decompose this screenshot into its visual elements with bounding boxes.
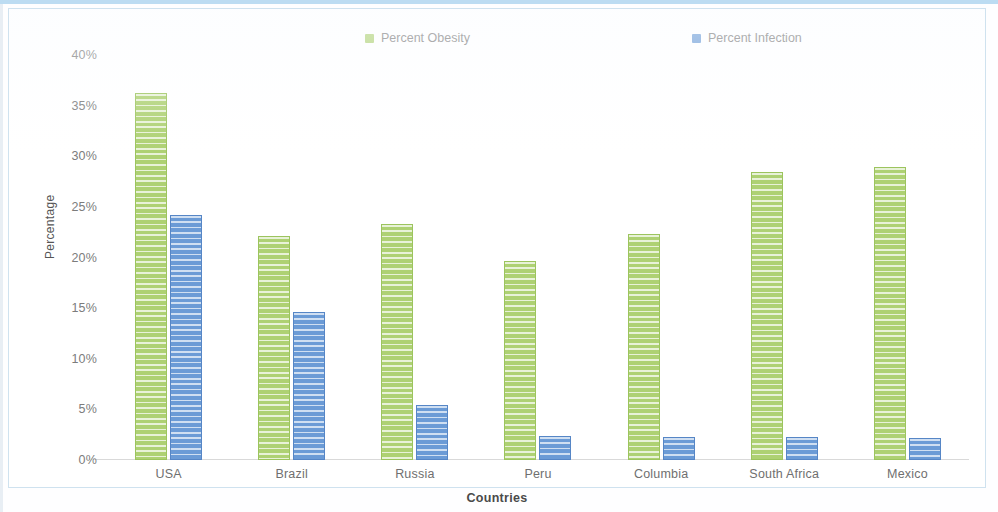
x-axis-tick-label: Peru (476, 467, 599, 481)
bar-group-bars (107, 55, 230, 460)
bar[interactable] (135, 93, 167, 460)
legend-label: Percent Infection (708, 31, 802, 45)
bar-group: Peru (476, 55, 599, 460)
scan-left-rule (0, 4, 3, 512)
bar-group: Columbia (600, 55, 723, 460)
chart-screenshot: Percent Obesity Percent Infection Percen… (0, 0, 998, 512)
y-axis-tick-label: 10% (71, 352, 97, 366)
chart-legend: Percent Obesity Percent Infection (107, 31, 969, 51)
x-axis-tick-label: Brazil (230, 467, 353, 481)
y-axis-tick-label: 25% (71, 200, 97, 214)
bar-group: USA (107, 55, 230, 460)
bar-group-bars (353, 55, 476, 460)
bar[interactable] (258, 236, 290, 460)
y-axis-tick-label: 15% (71, 301, 97, 315)
bar-group-bars (846, 55, 969, 460)
x-axis-title: Countries (9, 491, 985, 505)
bar[interactable] (663, 437, 695, 460)
chart-frame: Percent Obesity Percent Infection Percen… (8, 8, 986, 488)
y-axis-title: Percentage (43, 195, 57, 259)
y-axis-tick-label: 20% (71, 251, 97, 265)
scan-top-rule (0, 0, 998, 4)
bar[interactable] (381, 224, 413, 460)
y-axis-tick-label: 35% (71, 99, 97, 113)
bar[interactable] (416, 405, 448, 460)
bar-group: Brazil (230, 55, 353, 460)
y-axis-tick-label: 0% (79, 453, 97, 467)
bar[interactable] (909, 438, 941, 460)
y-axis-tick-label: 40% (71, 48, 97, 62)
bar-group-bars (476, 55, 599, 460)
x-axis-tick-label: Mexico (846, 467, 969, 481)
bar[interactable] (504, 261, 536, 460)
bar-group-bars (230, 55, 353, 460)
y-axis-tick-label: 5% (79, 402, 97, 416)
legend-label: Percent Obesity (381, 31, 470, 45)
legend-item-percent-obesity[interactable]: Percent Obesity (365, 31, 470, 45)
x-axis-tick-label: South Africa (723, 467, 846, 481)
bar[interactable] (293, 312, 325, 460)
bar-group: Russia (353, 55, 476, 460)
legend-swatch-icon (365, 34, 374, 43)
bar[interactable] (786, 437, 818, 460)
bar-group: South Africa (723, 55, 846, 460)
bar[interactable] (874, 167, 906, 460)
bar-group: Mexico (846, 55, 969, 460)
plot-area: 40%35%30%25%20%15%10%5%0%USABrazilRussia… (107, 55, 969, 460)
x-axis-tick-label: Columbia (600, 467, 723, 481)
bar[interactable] (539, 436, 571, 460)
y-axis-tick-label: 30% (71, 149, 97, 163)
bar-group-bars (723, 55, 846, 460)
bar[interactable] (170, 215, 202, 460)
legend-item-percent-infection[interactable]: Percent Infection (692, 31, 802, 45)
bar[interactable] (751, 172, 783, 460)
legend-swatch-icon (692, 34, 701, 43)
bar[interactable] (628, 234, 660, 460)
x-axis-tick-label: USA (107, 467, 230, 481)
bar-group-bars (600, 55, 723, 460)
x-axis-tick-label: Russia (353, 467, 476, 481)
